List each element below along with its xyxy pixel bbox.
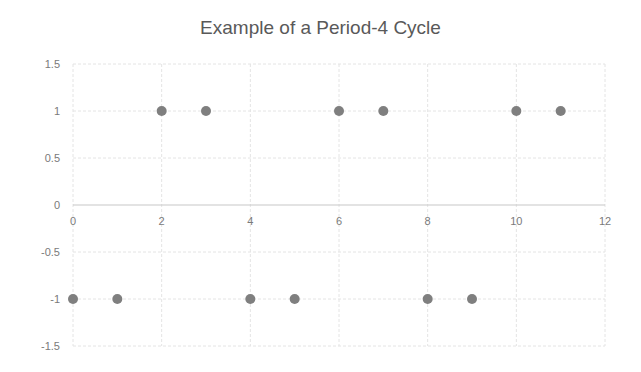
data-point-marker [334, 106, 344, 116]
y-tick-label: -1 [50, 293, 60, 305]
x-tick-label: 4 [247, 215, 253, 227]
scatter-chart: Example of a Period-4 Cycle 1.510.50-0.5… [0, 0, 641, 372]
chart-title: Example of a Period-4 Cycle [0, 17, 641, 39]
data-point-marker [112, 294, 122, 304]
data-point-marker [378, 106, 388, 116]
y-tick-label: -1.5 [41, 340, 60, 352]
data-point-marker [511, 106, 521, 116]
y-tick-label: 0 [54, 199, 60, 211]
y-tick-label: 1 [54, 105, 60, 117]
y-axis-tick-labels: 1.510.50-0.5-1-1.5 [41, 58, 60, 352]
plot-area: 1.510.50-0.5-1-1.5 024681012 [0, 0, 641, 372]
x-tick-label: 6 [336, 215, 342, 227]
data-point-marker [157, 106, 167, 116]
y-tick-label: 1.5 [45, 58, 60, 70]
x-tick-label: 8 [425, 215, 431, 227]
data-point-marker [467, 294, 477, 304]
x-tick-label: 10 [510, 215, 522, 227]
data-point-marker [245, 294, 255, 304]
data-point-marker [201, 106, 211, 116]
y-tick-label: -0.5 [41, 246, 60, 258]
data-point-marker [556, 106, 566, 116]
x-tick-label: 2 [159, 215, 165, 227]
x-tick-label: 0 [70, 215, 76, 227]
x-axis-tick-labels: 024681012 [70, 215, 611, 227]
data-point-marker [68, 294, 78, 304]
data-point-marker [290, 294, 300, 304]
data-point-marker [423, 294, 433, 304]
y-tick-label: 0.5 [45, 152, 60, 164]
x-tick-label: 12 [599, 215, 611, 227]
